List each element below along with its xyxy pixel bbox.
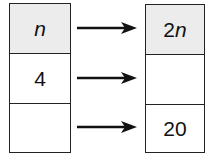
output-table: 2n 20 [145,4,205,153]
output-header-cell: 2n [146,5,204,54]
output-cell-2: 20 [146,104,204,152]
arrow-right-icon [77,22,137,34]
input-header-label: n [34,17,46,41]
input-cell-2 [10,103,70,152]
output-header-coefficient: 2 [163,18,175,41]
input-table: n 4 [9,3,71,153]
arrow-right-icon [77,72,137,84]
output-value-2: 20 [163,117,186,141]
arrow-right-icon [77,121,137,133]
output-header-label: 2n [163,18,186,42]
input-value-1: 4 [34,67,46,91]
input-header-cell: n [10,4,70,53]
output-cell-1 [146,54,204,104]
input-cell-1: 4 [10,53,70,103]
output-header-variable: n [175,18,187,41]
